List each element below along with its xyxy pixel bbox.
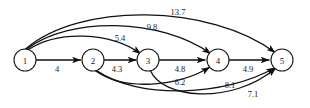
graph-node-4: 4: [207, 49, 229, 71]
node-1-label: 1: [23, 56, 28, 66]
graph-canvas: 45.49.813.74.36.28.14.87.14.9 12345: [0, 0, 310, 108]
node-5-label: 5: [280, 56, 285, 66]
graph-diagram: 45.49.813.74.36.28.14.87.14.9 12345: [0, 0, 310, 108]
edge-3-4-weight-label: 4.8: [175, 64, 186, 74]
edge-2-4-weight-label: 6.2: [175, 77, 186, 87]
node-4-label: 4: [216, 56, 221, 66]
edge-4-5-weight-label: 4.9: [243, 64, 254, 74]
node-2-label: 2: [91, 56, 96, 66]
edge-1-2-weight-label: 4: [55, 64, 60, 74]
edge-1-3-weight-label: 5.4: [115, 33, 126, 43]
edge-1-5: [26, 15, 276, 53]
graph-node-1: 1: [14, 49, 36, 71]
edge-1-4-weight-label: 9.8: [147, 22, 158, 32]
edge-1-5-weight-label: 13.7: [171, 7, 186, 17]
edge-3-5-weight-label: 7.1: [248, 89, 259, 99]
graph-node-2: 2: [82, 49, 104, 71]
graph-node-5: 5: [271, 49, 293, 71]
node-3-label: 3: [146, 56, 151, 66]
edge-2-3-weight-label: 4.3: [112, 64, 123, 74]
graph-node-3: 3: [137, 49, 159, 71]
edge-2-5-weight-label: 8.1: [225, 80, 236, 90]
